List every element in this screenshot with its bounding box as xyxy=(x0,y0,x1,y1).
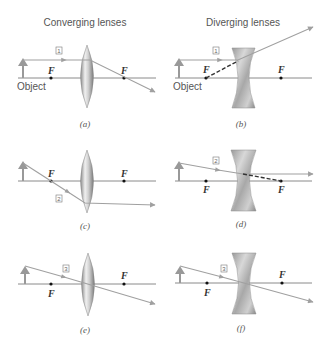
focal-point-right xyxy=(279,76,282,79)
focal-label-right: F xyxy=(120,270,128,281)
object-label: Object xyxy=(17,81,46,92)
ray-2-continued xyxy=(68,192,155,205)
focal-label-left: F xyxy=(47,168,55,179)
title-converging: Converging lenses xyxy=(44,17,127,28)
ray-1-continued xyxy=(64,60,155,92)
focal-point-left xyxy=(204,179,207,182)
ray-number-badge: 2 xyxy=(56,195,62,202)
ray-3 xyxy=(25,266,64,277)
panel-e: F F 3 (e) xyxy=(18,253,156,335)
focal-point-right xyxy=(122,282,125,285)
ray-1-continued xyxy=(220,27,313,60)
panel-c: F F 2 (c) xyxy=(18,150,156,231)
focal-label-right: F xyxy=(278,269,286,280)
focal-point-left xyxy=(49,282,52,285)
focal-point-right xyxy=(122,179,125,182)
caption-d: (d) xyxy=(236,219,247,229)
object-arrow xyxy=(18,58,28,78)
panel-f: F F 3 (f) xyxy=(175,253,313,333)
focal-label-right: F xyxy=(120,168,128,179)
focal-label-left: F xyxy=(202,184,210,195)
ray-number-badge: 1 xyxy=(213,47,219,54)
converging-lens xyxy=(81,45,94,108)
focal-label-left: F xyxy=(47,288,55,299)
caption-a: (a) xyxy=(80,119,91,129)
focal-point-right xyxy=(280,281,283,284)
title-diverging: Diverging lenses xyxy=(206,17,280,28)
caption-f: (f) xyxy=(237,323,246,333)
focal-label-left: F xyxy=(203,287,211,298)
virtual-ray-extension xyxy=(206,61,238,78)
caption-e: (e) xyxy=(80,325,90,335)
panel-d: F F 2 (d) xyxy=(174,150,313,229)
object-label: Object xyxy=(173,81,202,92)
ray-2 xyxy=(179,163,218,170)
ray-number-badge: 1 xyxy=(56,47,62,54)
focal-label-right: F xyxy=(277,64,285,75)
focal-label-left: F xyxy=(47,65,55,76)
focal-label-right: F xyxy=(120,65,128,76)
ray-3 xyxy=(180,266,222,277)
focal-label-left: F xyxy=(202,64,210,75)
ray-3-continued xyxy=(222,277,313,302)
ray-number-badge: 3 xyxy=(221,265,227,272)
ray-2-continued xyxy=(218,170,313,174)
ray-diagram: Converging lenses Diverging lenses Objec… xyxy=(0,0,333,357)
panel-a: Object F F 1 (a) xyxy=(17,45,156,129)
ray-number-badge: 2 xyxy=(213,157,219,164)
object-arrow xyxy=(20,266,30,284)
ray-2 xyxy=(23,163,68,192)
caption-b: (b) xyxy=(236,119,247,129)
focal-label-right: F xyxy=(277,184,285,195)
focal-point-left xyxy=(205,281,208,284)
caption-c: (c) xyxy=(80,221,90,231)
focal-point-left xyxy=(49,76,52,79)
object-arrow xyxy=(174,58,184,78)
panel-b: Object F F 1 (b) xyxy=(173,27,313,129)
object-arrow xyxy=(175,266,185,283)
ray-number-badge: 3 xyxy=(63,265,69,272)
ray-3-continued xyxy=(64,277,155,304)
object-arrow xyxy=(18,161,28,181)
